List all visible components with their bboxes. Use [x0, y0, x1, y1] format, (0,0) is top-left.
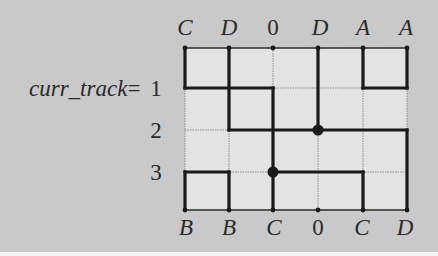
top-pin-label: A — [356, 16, 370, 39]
track-number-3: 3 — [150, 161, 162, 184]
track-number-2: 2 — [150, 119, 162, 142]
top-pin-dot — [405, 46, 410, 51]
top-pin-dot — [316, 46, 321, 51]
top-pin-dot — [183, 46, 188, 51]
bottom-pin-label: C — [266, 216, 281, 239]
bottom-pin-dot — [316, 208, 321, 213]
bottom-pin-label: B — [179, 216, 193, 239]
channel-routing-grid — [0, 0, 438, 256]
curr-track-label: curr_track= — [29, 77, 140, 100]
top-pin-label: D — [312, 16, 329, 39]
bottom-pin-label: 0 — [312, 216, 324, 239]
bottom-pin-dot — [271, 208, 276, 213]
top-pin-dot — [361, 46, 366, 51]
track-number-1: 1 — [150, 77, 162, 100]
bottom-pin-dot — [227, 208, 232, 213]
curr-track-variable: curr_track — [29, 76, 127, 101]
top-pin-label: A — [399, 16, 413, 39]
junction-dot — [268, 167, 279, 178]
top-pin-label: C — [177, 16, 192, 39]
top-pin-label: 0 — [267, 16, 279, 39]
bottom-pin-dot — [183, 208, 188, 213]
top-pin-label: D — [221, 16, 238, 39]
bottom-pin-label: B — [222, 216, 236, 239]
bottom-pin-dot — [405, 208, 410, 213]
top-pin-dot — [271, 46, 276, 51]
bottom-pin-dot — [361, 208, 366, 213]
bottom-pin-label: C — [354, 216, 369, 239]
top-pin-dot — [227, 46, 232, 51]
bottom-pin-label: D — [397, 216, 414, 239]
equals-sign: = — [127, 76, 140, 101]
junction-dot — [313, 125, 324, 136]
